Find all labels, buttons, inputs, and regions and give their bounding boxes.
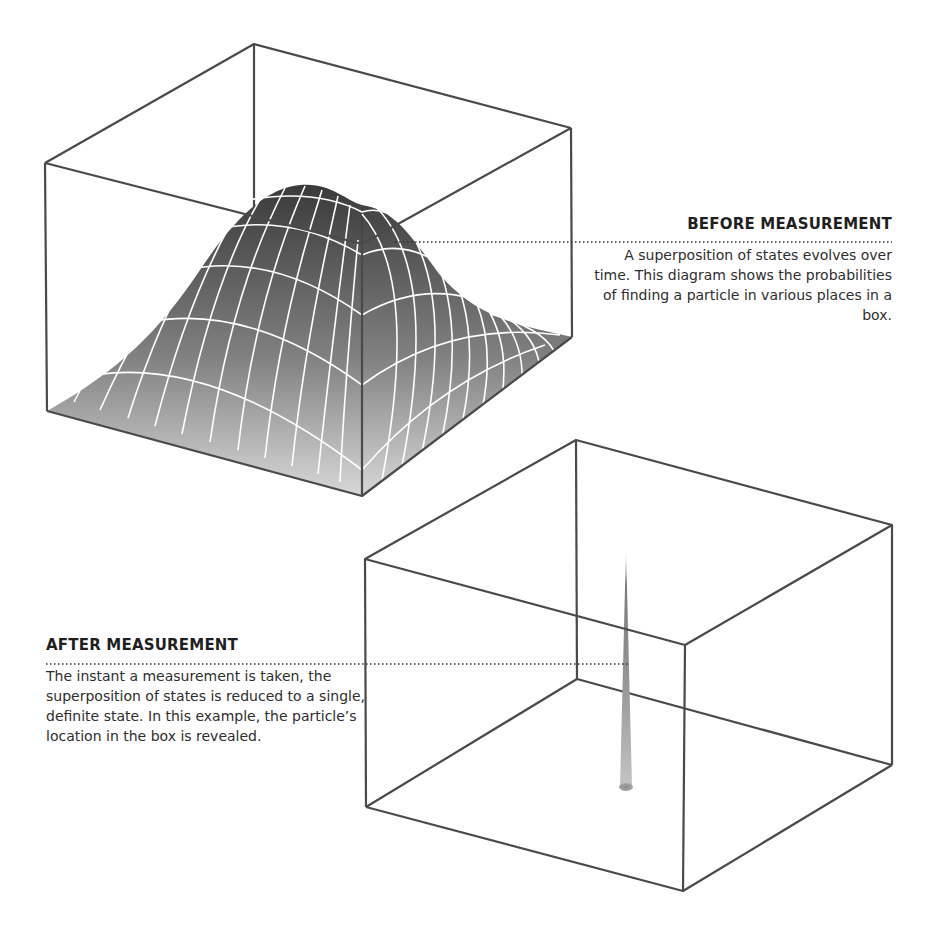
box-edge-front (683, 645, 685, 891)
quantum-measurement-diagram (0, 0, 934, 934)
after-heading: AFTER MEASUREMENT (46, 636, 376, 654)
box-edge-back (576, 440, 577, 679)
box-top-face (365, 440, 892, 645)
before-caption: BEFORE MEASUREMENT A superposition of st… (590, 215, 892, 325)
particle-spike (619, 548, 633, 791)
box-edge-top-front-right (362, 128, 571, 244)
before-heading: BEFORE MEASUREMENT (590, 215, 892, 233)
after-caption: AFTER MEASUREMENT The instant a measurem… (46, 636, 376, 746)
box-top-back-edges (45, 44, 571, 163)
after-body: The instant a measurement is taken, the … (46, 666, 376, 746)
box-edge-right (571, 128, 572, 337)
before-body: A superposition of states evolves over t… (590, 245, 892, 325)
box-edge-left (45, 163, 47, 411)
